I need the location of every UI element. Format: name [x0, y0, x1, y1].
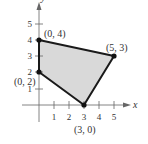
vertex-label-3-0: (3, 0): [74, 124, 96, 136]
y-tick-label: 3: [28, 51, 33, 61]
x-tick-label: 1: [52, 112, 57, 122]
vertex-label-0-2: (0, 2): [14, 76, 36, 88]
y-axis-arrow-icon: [37, 2, 42, 10]
x-tick-label: 5: [112, 112, 117, 122]
x-tick-label: 4: [97, 112, 102, 122]
vertex-label-0-4: (0, 4): [44, 28, 66, 40]
x-axis-label: x: [132, 99, 138, 110]
vertex-0-4: [36, 37, 41, 42]
y-tick-label: 5: [28, 19, 33, 29]
region-plot: 1 2 3 4 5 1 2 3 4 5 x y (0, 4) (5, 3) (3…: [0, 0, 148, 144]
x-tick-label: 2: [67, 112, 72, 122]
x-tick-label: 3: [82, 112, 87, 122]
y-tick-label: 4: [28, 35, 33, 45]
plot-svg: 1 2 3 4 5 1 2 3 4 5 x y (0, 4) (5, 3) (3…: [0, 0, 148, 144]
vertex-3-0: [81, 102, 86, 107]
vertex-0-2: [36, 69, 41, 74]
vertex-5-3: [111, 53, 116, 58]
x-axis-arrow-icon: [123, 103, 131, 108]
y-axis-label: y: [40, 0, 46, 3]
vertex-label-5-3: (5, 3): [106, 42, 128, 54]
